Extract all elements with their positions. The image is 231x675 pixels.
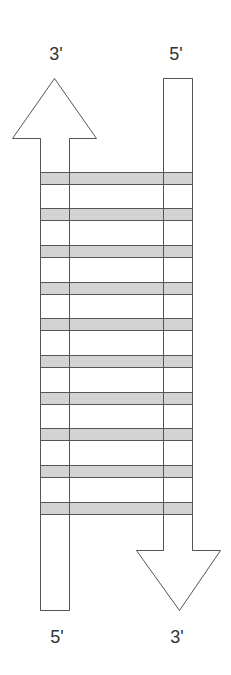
rung xyxy=(41,429,193,441)
rung xyxy=(41,246,193,258)
label-bottom-right: 3' xyxy=(170,627,183,647)
rung xyxy=(41,173,193,185)
rung xyxy=(41,466,193,478)
label-bottom-left: 5' xyxy=(50,627,63,647)
right-strand-down-arrow xyxy=(137,79,221,611)
label-top-right: 5' xyxy=(169,44,182,64)
rung xyxy=(41,503,193,515)
dna-ladder-diagram: 3' 5' 5' 3' xyxy=(0,0,231,675)
rung xyxy=(41,319,193,331)
rung xyxy=(41,393,193,405)
left-strand-up-arrow xyxy=(13,79,97,611)
rung xyxy=(41,283,193,295)
rung xyxy=(41,356,193,368)
label-top-left: 3' xyxy=(49,44,62,64)
rung xyxy=(41,209,193,221)
